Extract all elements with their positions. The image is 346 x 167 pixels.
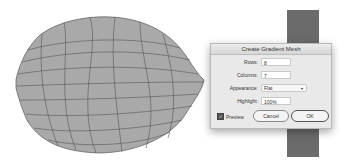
preview-toggle[interactable]: ✓ Preview [217,113,244,120]
appearance-select[interactable]: Flat ▾ [261,84,307,92]
mesh-shape[interactable] [16,17,204,153]
chevron-down-icon: ▾ [301,85,303,92]
rows-input[interactable]: 8 [261,58,291,66]
preview-label: Preview [226,114,244,120]
appearance-value: Flat [264,85,272,91]
columns-input[interactable]: 7 [261,71,291,79]
dialog-title: Create Gradient Mesh [211,44,331,55]
appearance-row: Appearance: Flat ▾ [211,84,331,93]
highlight-input[interactable]: 100% [261,97,291,105]
cancel-button[interactable]: Cancel [253,110,289,122]
rows-row: Rows: 8 [211,58,331,67]
columns-label: Columns: [237,72,258,78]
ok-button[interactable]: OK [291,110,329,122]
rows-label: Rows: [244,59,258,65]
create-gradient-mesh-dialog: Create Gradient Mesh Rows: 8 Columns: 7 … [210,43,332,129]
preview-checkbox[interactable]: ✓ [217,113,224,120]
columns-row: Columns: 7 [211,71,331,80]
highlight-label: Highlight: [237,98,258,104]
appearance-label: Appearance: [230,85,258,91]
highlight-row: Highlight: 100% [211,97,331,106]
